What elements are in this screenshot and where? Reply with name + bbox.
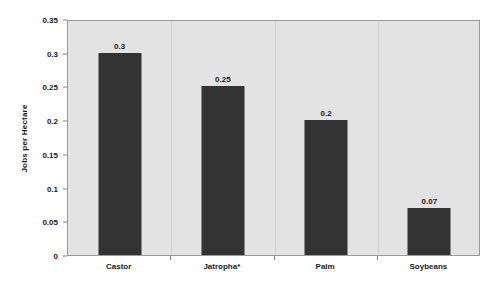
bar-value-label: 0.3 xyxy=(114,42,125,51)
y-tick-label: 0.35 xyxy=(42,16,58,25)
y-axis-tick-labels: 00.050.10.150.20.250.30.35 xyxy=(30,20,62,256)
bar-chart-figure: Jobs per Hectare 00.050.10.150.20.250.30… xyxy=(0,0,502,293)
bars-layer: 0.30.250.20.07 xyxy=(68,21,479,255)
y-tick-label: 0.2 xyxy=(47,117,58,126)
x-axis-tick-labels: CastorJatropha*PalmSoybeans xyxy=(67,262,480,278)
x-tick-mark xyxy=(377,256,378,260)
bar[interactable] xyxy=(305,120,348,255)
y-tick-label: 0.3 xyxy=(47,49,58,58)
y-tick-label: 0 xyxy=(54,252,58,261)
x-tick-mark xyxy=(170,256,171,260)
bar[interactable] xyxy=(408,208,451,255)
bar-group[interactable]: 0.25 xyxy=(171,21,274,255)
bar-group[interactable]: 0.07 xyxy=(378,21,481,255)
y-tick-label: 0.15 xyxy=(42,150,58,159)
y-axis-title-text: Jobs per Hectare xyxy=(20,104,29,172)
bar-value-label: 0.2 xyxy=(321,109,332,118)
bar[interactable] xyxy=(201,86,244,255)
y-tick-label: 0.05 xyxy=(42,218,58,227)
bar-value-label: 0.07 xyxy=(422,197,438,206)
x-axis-tick-marks xyxy=(67,256,480,261)
x-tick-label: Jatropha* xyxy=(203,262,240,271)
bar[interactable] xyxy=(98,53,141,255)
category-separator xyxy=(378,21,379,255)
x-tick-label: Castor xyxy=(106,262,131,271)
x-tick-mark xyxy=(274,256,275,260)
bar-group[interactable]: 0.2 xyxy=(275,21,378,255)
plot-area: 0.30.250.20.07 xyxy=(67,20,480,256)
x-tick-label: Palm xyxy=(316,262,335,271)
y-tick-label: 0.1 xyxy=(47,184,58,193)
y-tick-label: 0.25 xyxy=(42,83,58,92)
x-tick-label: Soybeans xyxy=(409,262,447,271)
category-separator xyxy=(171,21,172,255)
bar-value-label: 0.25 xyxy=(215,75,231,84)
category-separator xyxy=(275,21,276,255)
bar-group[interactable]: 0.3 xyxy=(68,21,171,255)
